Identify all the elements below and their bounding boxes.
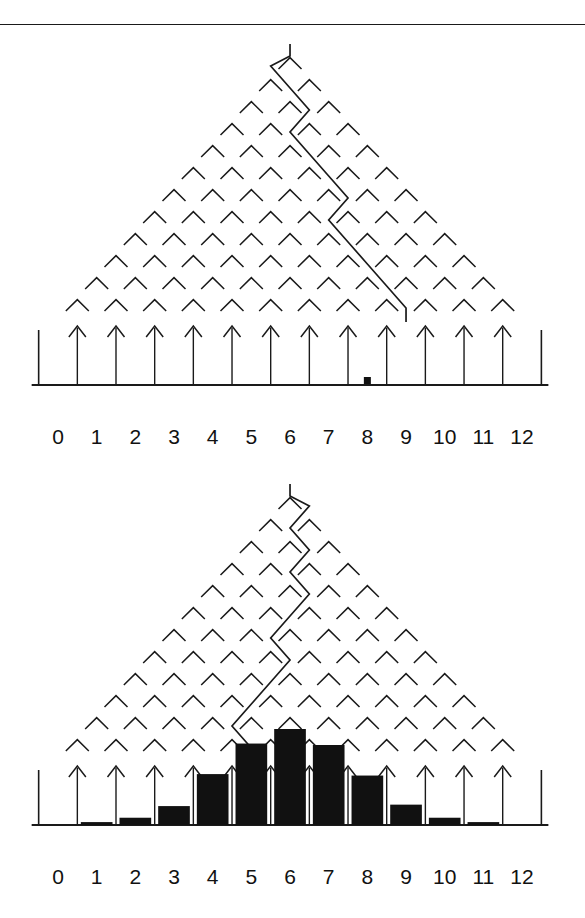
peg-r12-c11	[453, 300, 476, 311]
peg-r10-c4	[221, 696, 244, 707]
peg-r11-c7	[317, 718, 340, 729]
collection-box	[32, 330, 549, 385]
peg-r8-c3	[221, 212, 244, 223]
peg-r7-c2	[201, 630, 224, 641]
bar-bin-9	[390, 805, 422, 825]
axis-tick-label-10: 10	[425, 864, 465, 890]
peg-r9-c7	[356, 234, 379, 245]
peg-r12-c11	[453, 740, 476, 751]
peg-r3-c1	[240, 102, 263, 113]
ball-marker-bin-8	[364, 377, 371, 384]
peg-r9-c9	[433, 674, 456, 685]
figure-root: 0123456789101112 0123456789101112	[0, 0, 585, 918]
peg-r10-c3	[182, 696, 205, 707]
peg-r5-c5	[356, 586, 379, 597]
peg-r4-c3	[298, 564, 321, 575]
peg-r12-c10	[414, 300, 437, 311]
peg-r5-c3	[279, 146, 302, 157]
axis-tick-label-7: 7	[309, 424, 349, 450]
peg-r4-c2	[259, 564, 282, 575]
peg-r12-c9	[375, 740, 398, 751]
peg-r2-c2	[298, 80, 321, 91]
axis-tick-label-12: 12	[502, 424, 542, 450]
peg-r4-c4	[337, 564, 360, 575]
peg-r12-c1	[66, 740, 89, 751]
peg-r6-c5	[337, 168, 360, 179]
axis-tick-label-10: 10	[425, 424, 465, 450]
peg-r7-c3	[240, 630, 263, 641]
axis-tick-label-11: 11	[463, 424, 503, 450]
panel-single-ball-trial	[0, 40, 585, 470]
peg-r8-c4	[259, 212, 282, 223]
peg-r6-c2	[221, 608, 244, 619]
peg-r11-c5	[240, 718, 263, 729]
peg-r8-c5	[298, 212, 321, 223]
peg-r10-c5	[259, 256, 282, 267]
peg-r12-c5	[221, 300, 244, 311]
peg-r11-c9	[395, 718, 418, 729]
peg-r10-c1	[105, 696, 128, 707]
peg-r10-c9	[414, 256, 437, 267]
peg-r12-c3	[143, 740, 166, 751]
peg-r5-c5	[356, 146, 379, 157]
peg-r7-c5	[317, 190, 340, 201]
peg-r11-c8	[356, 278, 379, 289]
peg-r9-c2	[163, 234, 186, 245]
peg-r9-c1	[124, 234, 147, 245]
peg-r12-c2	[105, 300, 128, 311]
axis-tick-label-0: 0	[38, 424, 78, 450]
peg-r12-c1	[66, 300, 89, 311]
peg-r10-c10	[453, 256, 476, 267]
peg-r11-c4	[201, 278, 224, 289]
peg-r4-c1	[221, 564, 244, 575]
peg-r3-c2	[279, 542, 302, 553]
axis-tick-label-3: 3	[154, 424, 194, 450]
peg-r9-c6	[317, 234, 340, 245]
peg-r10-c8	[375, 696, 398, 707]
peg-r7-c7	[395, 630, 418, 641]
peg-r3-c2	[279, 102, 302, 113]
peg-r7-c1	[163, 630, 186, 641]
peg-r8-c7	[375, 652, 398, 663]
peg-r11-c3	[163, 718, 186, 729]
peg-r11-c10	[433, 718, 456, 729]
peg-r9-c2	[163, 674, 186, 685]
axis-tick-label-12: 12	[502, 864, 542, 890]
peg-r7-c1	[163, 190, 186, 201]
peg-r9-c8	[395, 234, 418, 245]
peg-r7-c6	[356, 630, 379, 641]
peg-r9-c9	[433, 234, 456, 245]
peg-r10-c7	[337, 256, 360, 267]
peg-r10-c1	[105, 256, 128, 267]
axis-tick-label-8: 8	[347, 424, 387, 450]
peg-r5-c4	[317, 586, 340, 597]
peg-r7-c7	[395, 190, 418, 201]
axis-tick-label-1: 1	[77, 424, 117, 450]
peg-r3-c1	[240, 542, 263, 553]
peg-r6-c2	[221, 168, 244, 179]
peg-r8-c8	[414, 212, 437, 223]
histogram-bars	[81, 729, 499, 825]
peg-r9-c5	[279, 234, 302, 245]
peg-r12-c10	[414, 740, 437, 751]
top-horizontal-rule	[0, 24, 585, 25]
peg-r11-c10	[433, 278, 456, 289]
bar-bin-2	[120, 818, 152, 825]
peg-r11-c1	[85, 278, 108, 289]
peg-r6-c1	[182, 608, 205, 619]
bar-bin-7	[313, 745, 345, 825]
peg-r4-c1	[221, 124, 244, 135]
axis-tick-label-8: 8	[347, 864, 387, 890]
peg-r8-c6	[337, 212, 360, 223]
peg-r11-c6	[279, 718, 302, 729]
ball-trajectory	[232, 484, 309, 762]
ball-trajectory	[271, 44, 406, 322]
galton-board-bottom	[0, 480, 585, 880]
peg-r7-c6	[356, 190, 379, 201]
peg-r11-c4	[201, 718, 224, 729]
peg-r9-c5	[279, 674, 302, 685]
bar-bin-4	[197, 774, 229, 825]
peg-r7-c3	[240, 190, 263, 201]
peg-r5-c1	[201, 586, 224, 597]
peg-r12-c6	[259, 300, 282, 311]
